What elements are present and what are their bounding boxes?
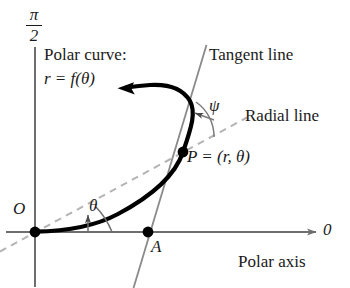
psi-angle-label: ψ — [209, 97, 220, 114]
polar-axis-label: Polar axis — [238, 253, 306, 270]
pi-numerator: π — [26, 6, 42, 24]
origin-label: O — [13, 200, 25, 217]
pi-denominator: 2 — [26, 27, 42, 45]
point-p-label: P = (r, θ) — [187, 148, 250, 165]
pi-over-two-label: π 2 — [26, 6, 42, 45]
radial-line-label: Radial line — [245, 107, 319, 124]
polar-coordinate-diagram: π 2 Polar curve: r = f(θ) Tangent line ψ… — [0, 0, 350, 288]
polar-curve-label: Polar curve: — [44, 46, 127, 63]
tangent-line — [134, 45, 207, 288]
diagram-canvas — [0, 0, 350, 288]
curve-equation-label: r = f(θ) — [44, 70, 95, 87]
tangent-line-label: Tangent line — [209, 46, 293, 63]
point-a-label: A — [151, 238, 161, 255]
origin-point-dot — [30, 227, 41, 238]
theta-angle-label: θ — [89, 197, 97, 214]
point-a-dot — [143, 227, 154, 238]
polar-curve-path — [35, 85, 193, 232]
axis-zero-label: 0 — [323, 221, 332, 238]
